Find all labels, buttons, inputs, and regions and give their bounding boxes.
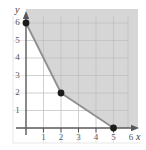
x-axis-name: x [136, 132, 140, 142]
x-tick-label-6: 6 [126, 133, 137, 142]
x-tick-label-2: 2 [56, 133, 67, 142]
x-tick-label-3: 3 [73, 133, 84, 142]
y-tick-label-5: 5 [12, 36, 23, 45]
y-tick-label-2: 2 [12, 88, 23, 97]
y-tick-label-6: 6 [12, 18, 23, 27]
graph-figure: 6 5 4 3 2 1 1 2 3 4 5 6 y x [0, 0, 146, 150]
x-tick-label-5: 5 [108, 133, 119, 142]
y-tick-label-1: 1 [12, 106, 23, 115]
y-tick-label-3: 3 [12, 71, 23, 80]
data-point-0-6 [23, 20, 30, 27]
y-tick-label-4: 4 [12, 53, 23, 62]
x-tick-label-1: 1 [38, 133, 49, 142]
y-axis [23, 11, 29, 135]
x-tick-label-4: 4 [91, 133, 102, 142]
data-point-2-2 [58, 90, 65, 97]
data-point-5-0 [110, 125, 117, 132]
y-axis-name: y [15, 5, 19, 15]
